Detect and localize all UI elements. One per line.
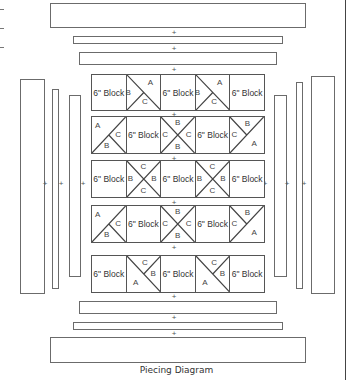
block-row: 6" BlockCBA6" BlockCBA6" Block [91,255,265,293]
piece-label: B [175,143,180,151]
block-label: 6" Block [230,269,264,279]
triangle-unit: CBBC [127,161,162,197]
inner-border-top [79,52,277,65]
block-label: 6" Block [230,174,264,184]
block-label: 6" Block [230,88,264,98]
block-label: 6" Block [127,130,161,140]
margin-tick [0,28,4,29]
outer-border-right [311,76,335,294]
piece-label: A [217,79,222,87]
piece-label: C [211,98,217,106]
piece-label: B [126,89,131,97]
plus-sign: + [170,45,178,53]
plus-sign: + [41,180,49,188]
block-label: 6" Block [196,219,230,229]
margin-tick [0,47,4,48]
piece-label: C [211,259,217,267]
piece-label: C [140,187,146,195]
plus-sign: + [170,244,178,252]
piece-label: C [162,220,168,228]
triangle-unit: BCA [230,117,264,153]
piece-label: B [220,175,225,183]
plus-sign: + [283,180,291,188]
piece-label: A [133,279,138,287]
plus-sign: + [170,29,178,37]
six-inch-block: 6" Block [92,161,127,197]
piece-label: B [197,175,202,183]
triangle-unit: BAC [196,75,231,110]
piece-label: C [142,98,148,106]
triangle-unit: CBBC [196,161,231,197]
six-inch-block: 6" Block [127,206,162,242]
inner-border-bottom [79,301,277,314]
piece-label: A [95,122,100,130]
piece-label: A [95,211,100,219]
piece-label: B [175,119,180,127]
triangle-unit: BCCB [161,117,196,153]
block-label: 6" Block [161,174,195,184]
six-inch-block: 6" Block [92,75,127,110]
six-inch-block: 6" Block [196,206,231,242]
block-row: ACB6" BlockBCCB6" BlockBCA [91,116,265,154]
piece-label: A [202,279,207,287]
piece-label: B [195,89,200,97]
piece-label: B [245,209,250,217]
piece-label: C [162,131,168,139]
middle-border-top [73,36,283,44]
six-inch-block: 6" Block [161,75,196,110]
triangle-unit: CBA [196,256,231,292]
plus-sign: + [300,180,308,188]
piece-label: A [148,79,153,87]
piece-label: B [175,208,180,216]
piece-label: C [231,220,237,228]
six-inch-block: 6" Block [230,256,264,292]
triangle-unit: BCA [230,206,264,242]
block-label: 6" Block [196,130,230,140]
six-inch-block: 6" Block [127,117,162,153]
six-inch-block: 6" Block [161,256,196,292]
piece-label: C [210,187,216,195]
triangle-unit: CBA [127,256,162,292]
six-inch-block: 6" Block [230,161,264,197]
piece-label: B [104,231,109,239]
plus-sign: + [170,314,178,322]
piece-label: B [150,270,155,278]
piece-label: C [115,131,121,139]
plus-sign: + [170,293,178,301]
block-label: 6" Block [92,88,126,98]
triangle-unit: ACB [92,206,127,242]
piece-label: C [231,131,237,139]
six-inch-block: 6" Block [196,117,231,153]
six-inch-block: 6" Block [230,75,264,110]
piece-label: C [210,163,216,171]
plus-sign: + [170,330,178,338]
margin-tick [0,9,4,10]
block-label: 6" Block [127,219,161,229]
six-inch-block: 6" Block [92,256,127,292]
piece-label: C [142,259,148,267]
page-edge-line [345,0,346,380]
triangle-unit: BAC [127,75,162,110]
outer-border-bottom [50,337,306,363]
triangle-unit: ACB [92,117,127,153]
middle-border-left [52,89,59,289]
block-label: 6" Block [92,269,126,279]
piece-label: A [252,140,257,148]
six-inch-block: 6" Block [161,161,196,197]
middle-border-bottom [73,322,283,330]
plus-sign: + [79,180,87,188]
block-row: 6" BlockBAC6" BlockBAC6" Block [91,74,265,111]
piece-label: C [140,163,146,171]
piece-label: B [220,270,225,278]
piece-label: B [104,142,109,150]
plus-sign: + [170,66,178,74]
block-row: 6" BlockCBBC6" BlockCBBC6" Block [91,160,265,198]
block-row: ACB6" BlockBCCB6" BlockBCA [91,205,265,243]
piece-label: B [151,175,156,183]
triangle-unit: BCCB [161,206,196,242]
piece-label: C [115,220,121,228]
piece-label: C [186,220,192,228]
plus-sign: + [57,180,65,188]
piece-label: B [175,232,180,240]
block-label: 6" Block [161,88,195,98]
